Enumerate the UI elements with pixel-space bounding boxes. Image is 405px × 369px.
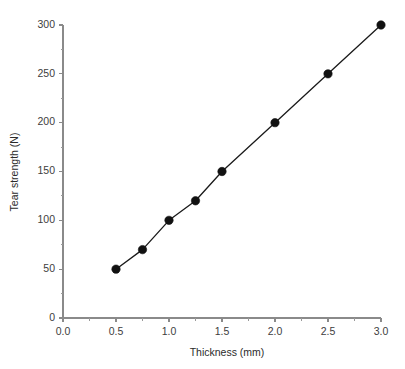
x-tick-label: 0.5: [109, 325, 124, 337]
x-tick-label: 1.0: [162, 325, 177, 337]
series-line: [116, 25, 381, 269]
y-tick-label: 250: [37, 67, 55, 79]
data-point-marker: [138, 245, 146, 253]
data-point-marker: [165, 216, 173, 224]
data-point-marker: [191, 197, 199, 205]
data-point-marker: [112, 265, 120, 273]
y-tick-label: 100: [37, 213, 55, 225]
line-chart: 0501001502002503000.00.51.01.52.02.53.0 …: [0, 0, 405, 369]
data-point-marker: [218, 167, 226, 175]
axis-tick-labels: 0501001502002503000.00.51.01.52.02.53.0: [37, 18, 388, 337]
x-tick-label: 3.0: [374, 325, 389, 337]
y-tick-label: 150: [37, 164, 55, 176]
y-tick-label: 50: [43, 262, 55, 274]
x-tick-label: 2.0: [268, 325, 283, 337]
y-tick-label: 200: [37, 115, 55, 127]
data-point-marker: [271, 118, 279, 126]
y-axis-title: Tear strength (N): [8, 133, 20, 212]
chart-figure: 0501001502002503000.00.51.01.52.02.53.0 …: [0, 0, 405, 369]
data-point-marker: [324, 70, 332, 78]
y-tick-label: 300: [37, 18, 55, 30]
y-tick-label: 0: [49, 311, 55, 323]
x-tick-label: 2.5: [321, 325, 336, 337]
x-axis-title: Thickness (mm): [190, 346, 265, 358]
x-tick-label: 0.0: [56, 325, 71, 337]
x-tick-label: 1.5: [215, 325, 230, 337]
data-point-marker: [377, 21, 385, 29]
data-series: [112, 21, 385, 274]
